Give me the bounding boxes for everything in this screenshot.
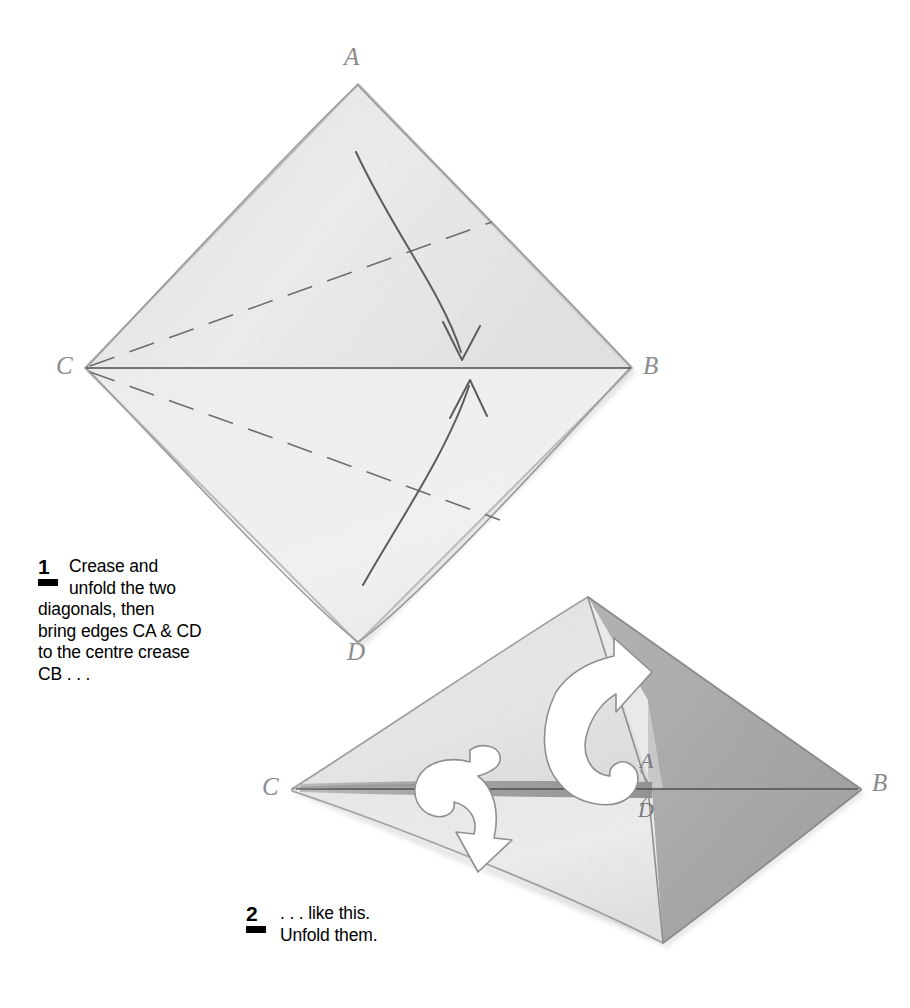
figure-1-diamond — [0, 0, 910, 1008]
step-2-line-2: Unfold them. — [246, 925, 476, 947]
figure-2-dark-upper — [588, 597, 861, 789]
step-2-line-1: . . . like this. — [246, 903, 476, 925]
instruction-page: A B C D C B A D 1 Crease and unfold the … — [0, 0, 910, 1008]
figure-1-vertex-label-C: C — [56, 353, 73, 378]
fold-arrow-upper — [356, 152, 480, 360]
step-2-caption: 2 . . . like this. Unfold them. — [246, 903, 476, 946]
step-1-number-column: 1 — [38, 556, 64, 586]
figure-1-vertex-label-B: B — [643, 353, 659, 378]
step-1-line-4: bring edges CA & CD — [38, 621, 248, 643]
figure-2-dark-lower — [648, 789, 861, 943]
step-1-number: 1 — [38, 556, 64, 577]
figure-2-vertex-label-A: A — [640, 748, 654, 773]
step-1-line-1: Crease and — [38, 556, 248, 578]
figure-2-vertex-label-B: B — [872, 770, 888, 795]
unfold-arrow-up — [544, 638, 652, 805]
crease-diagonal-upper — [90, 222, 492, 366]
figure-1-vertex-label-D: D — [347, 639, 366, 664]
step-2-number-column: 2 — [246, 903, 272, 933]
step-1-rule — [38, 579, 58, 586]
unfold-arrow-down — [415, 746, 512, 872]
crease-diagonal-lower — [90, 372, 500, 520]
fold-arrow-lower — [363, 380, 487, 585]
figure-1-vertex-label-A: A — [344, 44, 360, 69]
step-1-text: Crease and unfold the two diagonals, the… — [38, 556, 248, 685]
step-2-rule — [246, 926, 266, 933]
step-1-line-3: diagonals, then — [38, 599, 248, 621]
step-2-number: 2 — [246, 903, 272, 924]
figure-2-light-upper — [292, 598, 652, 788]
step-2-text: . . . like this. Unfold them. — [246, 903, 476, 946]
figure-2-vertex-label-C: C — [262, 774, 279, 799]
step-1-caption: 1 Crease and unfold the two diagonals, t… — [38, 556, 248, 685]
step-1-line-5: to the centre crease — [38, 642, 248, 664]
step-1-line-2: unfold the two — [38, 578, 248, 600]
figure-2-group — [292, 597, 865, 948]
step-1-line-6: CB . . . — [38, 664, 248, 686]
figure-2-vertex-label-D: D — [638, 797, 654, 822]
crease-slot-band — [300, 781, 652, 798]
